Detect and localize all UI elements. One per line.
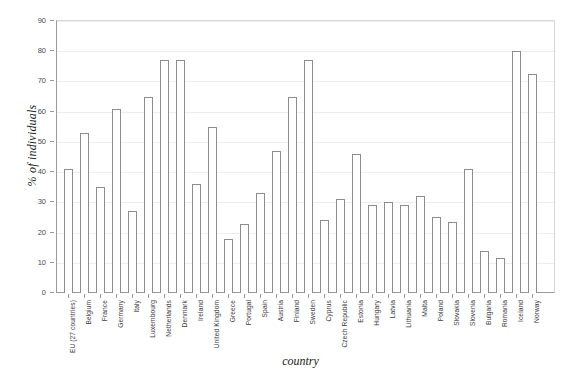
x-tick-slot: Cyprus	[317, 294, 333, 354]
x-tick-slot: Romania	[493, 294, 509, 354]
x-tick-mark	[212, 294, 213, 298]
bar-slot	[525, 21, 541, 293]
x-tick-label: Germany	[117, 300, 124, 328]
x-tick-label: Portugal	[245, 300, 252, 325]
x-tick-mark	[324, 294, 325, 298]
x-tick-mark	[84, 294, 85, 298]
x-tick-label: Lithuania	[405, 300, 412, 328]
x-tick-label: Ireland	[197, 300, 204, 321]
x-axis-title: country	[0, 354, 571, 369]
x-tick-slot: Denmark	[173, 294, 189, 354]
y-tick-label: 80	[38, 46, 46, 55]
x-tick-slot: Norway	[525, 294, 541, 354]
x-tick-label: France	[101, 300, 108, 321]
x-tick-slot: Poland	[429, 294, 445, 354]
x-tick-slot: United Kingdom	[205, 294, 221, 354]
x-tick-label: Hungary	[373, 300, 380, 326]
y-tick-label: 60	[38, 106, 46, 115]
x-tick-mark	[500, 294, 501, 298]
y-tick-mark	[50, 20, 54, 21]
x-tick-label: EU (27 countries)	[69, 300, 76, 353]
bar	[448, 222, 457, 293]
bar-slot	[493, 21, 509, 293]
bar	[368, 205, 377, 293]
y-tick-mark	[50, 292, 54, 293]
bar	[240, 224, 249, 294]
x-tick-slot: Portugal	[237, 294, 253, 354]
x-tick-mark	[516, 294, 517, 298]
bar-slot	[157, 21, 173, 293]
bar-slot	[77, 21, 93, 293]
bar-slot	[285, 21, 301, 293]
x-tick-mark	[228, 294, 229, 298]
y-tick-label: 0	[42, 288, 46, 297]
x-tick-mark	[148, 294, 149, 298]
bar	[400, 205, 409, 293]
bar-slot	[397, 21, 413, 293]
y-tick-label: 20	[38, 227, 46, 236]
bar-slot	[461, 21, 477, 293]
x-tick-mark	[276, 294, 277, 298]
x-tick-mark	[260, 294, 261, 298]
x-tick-slot: Austria	[269, 294, 285, 354]
x-tick-mark	[132, 294, 133, 298]
bar	[64, 169, 73, 293]
x-tick-slot: Slovakia	[445, 294, 461, 354]
x-tick-slot: Germany	[109, 294, 125, 354]
bar-slot	[445, 21, 461, 293]
x-tick-label: Iceland	[517, 300, 524, 322]
bar-slot	[381, 21, 397, 293]
bar-slot	[109, 21, 125, 293]
bar-slot	[93, 21, 109, 293]
x-tick-label: Slovenia	[469, 300, 476, 326]
x-tick-mark	[292, 294, 293, 298]
x-tick-label: Malta	[421, 300, 428, 317]
bar	[480, 251, 489, 293]
bar	[528, 74, 537, 293]
bar-slot	[125, 21, 141, 293]
bar	[416, 196, 425, 293]
x-tick-slot: Lithuania	[397, 294, 413, 354]
x-tick-label: Finland	[293, 300, 300, 322]
bar	[96, 187, 105, 293]
y-tick-label: 70	[38, 76, 46, 85]
x-tick-slot: Latvia	[381, 294, 397, 354]
y-tick-mark	[50, 141, 54, 142]
x-tick-label: United Kingdom	[213, 300, 220, 348]
x-tick-label: Bulgaria	[485, 300, 492, 325]
x-tick-mark	[340, 294, 341, 298]
x-tick-mark	[420, 294, 421, 298]
x-tick-slot: Malta	[413, 294, 429, 354]
x-tick-label: Luxembourg	[149, 300, 156, 338]
x-tick-mark	[372, 294, 373, 298]
bar	[320, 220, 329, 293]
bar	[272, 151, 281, 293]
x-tick-label: Czech Republic	[341, 300, 348, 348]
bar	[192, 184, 201, 293]
x-tick-label: Spain	[261, 300, 268, 317]
x-tick-slot: EU (27 countries)	[61, 294, 77, 354]
y-tick-mark	[50, 111, 54, 112]
x-tick-mark	[244, 294, 245, 298]
x-tick-slot: France	[93, 294, 109, 354]
x-tick-label: Denmark	[181, 300, 188, 327]
x-tick-slot: Netherlands	[157, 294, 173, 354]
bar-slot	[237, 21, 253, 293]
bar	[80, 133, 89, 293]
x-tick-mark	[532, 294, 533, 298]
bar-slot	[509, 21, 525, 293]
bar	[384, 202, 393, 293]
bar-slot	[205, 21, 221, 293]
x-tick-slot: Luxembourg	[141, 294, 157, 354]
y-tick-label: 50	[38, 136, 46, 145]
x-tick-slot: Ireland	[189, 294, 205, 354]
bar-slot	[365, 21, 381, 293]
bar	[176, 60, 185, 293]
y-tick-label: 10	[38, 257, 46, 266]
y-axis-tick-labels: 0102030405060708090	[0, 20, 54, 293]
bar-slot	[301, 21, 317, 293]
x-tick-mark	[356, 294, 357, 298]
x-tick-label: Cyprus	[325, 300, 332, 322]
y-tick-mark	[50, 232, 54, 233]
x-tick-label: Austria	[277, 300, 284, 321]
